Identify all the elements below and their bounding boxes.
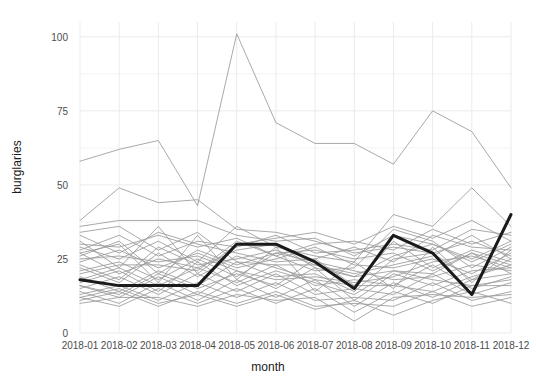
x-tick-label: 2018-10 (414, 340, 451, 351)
y-tick-label: 75 (28, 105, 68, 116)
y-axis-title: burglaries (10, 107, 24, 227)
y-tick-label: 0 (28, 328, 68, 339)
x-tick-label: 2018-03 (140, 340, 177, 351)
x-tick-label: 2018-09 (375, 340, 412, 351)
x-tick-label: 2018-04 (179, 340, 216, 351)
x-tick-label: 2018-06 (258, 340, 295, 351)
x-tick-label: 2018-11 (454, 340, 490, 351)
y-tick-label: 25 (28, 253, 68, 264)
y-tick-label: 50 (28, 179, 68, 190)
x-tick-label: 2018-12 (493, 340, 530, 351)
chart-container: burglaries month 0255075100 2018-012018-… (0, 0, 536, 387)
line-chart-plot (0, 0, 536, 387)
x-tick-label: 2018-08 (336, 340, 373, 351)
x-axis-title: month (0, 360, 536, 374)
x-tick-label: 2018-02 (101, 340, 138, 351)
x-tick-label: 2018-07 (297, 340, 334, 351)
x-tick-label: 2018-05 (218, 340, 255, 351)
y-tick-label: 100 (28, 31, 68, 42)
x-tick-label: 2018-01 (62, 340, 99, 351)
